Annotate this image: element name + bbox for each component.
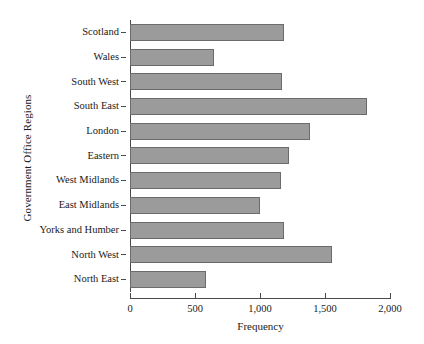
y-axis-tick-mark <box>121 279 126 280</box>
y-axis-tick-west-midlands: West Midlands <box>18 168 126 193</box>
y-axis-tick-london: London <box>18 119 126 144</box>
y-axis-tick-label: Scotland <box>82 27 121 38</box>
bar-row <box>130 69 390 94</box>
y-axis-tick-mark <box>121 131 126 132</box>
y-axis-tick-south-west: South West <box>18 69 126 94</box>
bar-row <box>130 45 390 70</box>
x-axis-line <box>130 298 391 299</box>
y-axis-tick-label: London <box>86 126 121 137</box>
bar-row <box>130 218 390 243</box>
y-axis-tick-mark <box>121 230 126 231</box>
bar-yorks-and-humber <box>130 222 284 239</box>
y-axis-tick-mark <box>121 32 126 33</box>
y-axis-tick-mark <box>121 180 126 181</box>
y-axis-tick-mark <box>121 106 126 107</box>
x-axis-tick-label: 1,500 <box>305 303 345 314</box>
y-axis-tick-mark <box>121 57 126 58</box>
y-axis-tick-mark <box>121 81 126 82</box>
y-axis-tick-label: East Midlands <box>59 200 121 211</box>
y-axis-tick-label: Wales <box>94 52 121 63</box>
bar-row <box>130 94 390 119</box>
plot-area <box>130 20 390 292</box>
bar-london <box>130 123 310 140</box>
bar-chart: Government Office Regions ScotlandWalesS… <box>0 0 424 344</box>
bar-west-midlands <box>130 172 281 189</box>
y-axis-tick-label: North West <box>71 250 121 261</box>
bar-row <box>130 144 390 169</box>
y-axis-tick-yorks-and-humber: Yorks and Humber <box>18 218 126 243</box>
bar-north-west <box>130 246 332 263</box>
bar-row <box>130 243 390 268</box>
y-axis-tick-north-east: North East <box>18 267 126 292</box>
x-axis-title: Frequency <box>130 320 391 332</box>
y-axis-tick-labels: ScotlandWalesSouth WestSouth EastLondonE… <box>18 20 126 292</box>
bar-row <box>130 193 390 218</box>
y-axis-tick-label: North East <box>74 274 121 285</box>
bar-row <box>130 267 390 292</box>
bar-row <box>130 20 390 45</box>
y-axis-tick-label: South West <box>71 77 121 88</box>
x-axis-tick-label: 1,000 <box>240 303 280 314</box>
y-axis-tick-scotland: Scotland <box>18 20 126 45</box>
x-axis-tick-label: 2,000 <box>370 303 410 314</box>
y-axis-tick-wales: Wales <box>18 45 126 70</box>
x-axis-tick-mark <box>130 293 131 298</box>
x-axis-tick-mark <box>325 293 326 298</box>
bar-north-east <box>130 271 206 288</box>
y-axis-tick-east-midlands: East Midlands <box>18 193 126 218</box>
bar-row <box>130 168 390 193</box>
x-axis-tick-mark <box>260 293 261 298</box>
x-axis-tick-label: 0 <box>110 303 150 314</box>
bar-east-midlands <box>130 197 260 214</box>
y-axis-tick-mark <box>121 205 126 206</box>
y-axis-tick-label: Eastern <box>88 151 122 162</box>
x-axis-tick-mark <box>195 293 196 298</box>
bar-wales <box>130 49 214 66</box>
y-axis-tick-north-west: North West <box>18 243 126 268</box>
x-axis-tick-mark <box>390 293 391 298</box>
y-axis-tick-eastern: Eastern <box>18 144 126 169</box>
y-axis-tick-label: South East <box>74 101 121 112</box>
bar-scotland <box>130 24 284 41</box>
y-axis-tick-label: West Midlands <box>56 175 121 186</box>
bar-south-west <box>130 73 282 90</box>
y-axis-tick-south-east: South East <box>18 94 126 119</box>
bar-eastern <box>130 147 289 164</box>
y-axis-tick-label: Yorks and Humber <box>40 225 121 236</box>
y-axis-tick-mark <box>121 155 126 156</box>
y-axis-tick-mark <box>121 254 126 255</box>
x-axis-tick-label: 500 <box>175 303 215 314</box>
bar-south-east <box>130 98 367 115</box>
bar-row <box>130 119 390 144</box>
